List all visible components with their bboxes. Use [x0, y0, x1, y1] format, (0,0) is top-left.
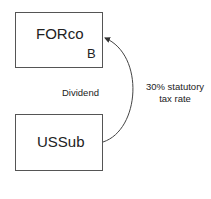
dividend-label: Dividend — [62, 87, 99, 99]
tax-rate-line1: 30% statutory — [140, 81, 210, 93]
tax-rate-line2: tax rate — [140, 93, 210, 105]
dividend-arrow-curve — [103, 38, 133, 142]
tax-rate-annotation: 30% statutory tax rate — [140, 81, 210, 105]
